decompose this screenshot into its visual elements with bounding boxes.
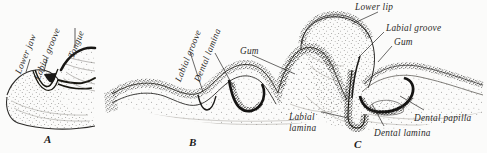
panel-letter-c: C xyxy=(354,138,361,150)
label-dental-lamina-c: Dental lamina xyxy=(374,129,431,139)
label-dental-papilla: Dental papilla xyxy=(414,114,471,124)
label-labial-groove-c: Labial groove xyxy=(386,24,441,34)
label-gum-c: Gum xyxy=(394,38,413,48)
label-gum-b: Gum xyxy=(240,47,259,57)
label-lower-lip: Lower lip xyxy=(355,3,393,13)
label-labial-lamina-line1: Labial xyxy=(289,113,315,123)
panel-letter-b: B xyxy=(189,136,196,148)
label-labial-lamina-line2: lamina xyxy=(289,124,316,134)
figure-container: Lower jaw Labial groove Tongue A Labial … xyxy=(0,0,487,153)
panel-letter-a: A xyxy=(44,133,51,145)
